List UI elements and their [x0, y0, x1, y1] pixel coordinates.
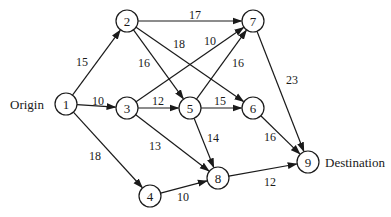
node-4: 4 — [139, 185, 161, 207]
node-label: 6 — [250, 101, 257, 116]
network-diagram: 15101817161810121310161514162312 1234567… — [0, 0, 391, 217]
edge-weight-2-6: 18 — [173, 37, 185, 51]
node-3: 3 — [116, 97, 138, 119]
edge-weight-3-7: 10 — [204, 34, 216, 48]
node-label: 2 — [124, 14, 131, 29]
edge-weight-3-8: 13 — [149, 139, 161, 153]
node-1: 1 — [55, 93, 77, 115]
node-label: 3 — [124, 101, 131, 116]
edge-3-to-8 — [136, 115, 209, 171]
edge-weight-1-2: 15 — [76, 55, 88, 69]
edge-8-to-9 — [229, 164, 297, 176]
edge-weight-1-4: 18 — [89, 149, 101, 163]
edge-weight-2-7: 17 — [189, 8, 201, 22]
node-6: 6 — [242, 97, 264, 119]
edge-weight-7-9: 23 — [286, 73, 298, 87]
node-label: 5 — [187, 101, 194, 116]
node-5: 5 — [179, 97, 201, 119]
edge-1-to-4 — [73, 112, 142, 187]
edge-weight-5-8: 14 — [207, 131, 219, 145]
edge-weight-5-7: 16 — [232, 56, 244, 70]
node-2: 2 — [116, 10, 138, 32]
edge-weight-8-9: 12 — [264, 175, 276, 189]
edge-weight-1-3: 10 — [92, 94, 104, 108]
edge-weight-2-5: 16 — [138, 56, 150, 70]
edge-weight-6-9: 16 — [264, 130, 276, 144]
node-9: 9 — [297, 151, 319, 173]
node-label: 4 — [147, 189, 154, 204]
node-label: 1 — [63, 97, 70, 112]
destination-label: Destination — [325, 155, 385, 170]
edge-weight-4-8: 10 — [177, 190, 189, 204]
edge-weight-5-6: 15 — [214, 94, 226, 108]
node-8: 8 — [207, 167, 229, 189]
node-label: 8 — [215, 171, 222, 186]
node-label: 7 — [250, 14, 257, 29]
origin-label: Origin — [10, 97, 44, 112]
nodes: 123456789 — [55, 10, 319, 207]
node-label: 9 — [305, 155, 312, 170]
node-7: 7 — [242, 10, 264, 32]
edge-weight-3-5: 12 — [152, 94, 164, 108]
